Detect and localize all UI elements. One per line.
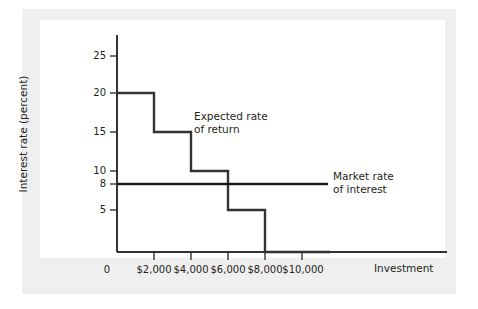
annotation-market-line-2: of interest [333, 183, 394, 196]
y-tick-label-8: 8 [80, 178, 106, 189]
annotation-expected-rate-of-return: Expected rate of return [194, 110, 268, 136]
y-tick-label-15: 15 [80, 126, 106, 137]
y-tick-label-10: 10 [80, 165, 106, 176]
chart-figure: Interest rate (percent) Investment 25 20… [0, 0, 478, 309]
annotation-expected-line-1: Expected rate [194, 110, 268, 123]
y-tick-label-25: 25 [80, 50, 106, 61]
annotation-market-line-1: Market rate [333, 170, 394, 183]
x-axis-title: Investment [374, 262, 433, 274]
y-tick-label-5: 5 [80, 204, 106, 215]
annotation-market-rate-of-interest: Market rate of interest [333, 170, 394, 196]
y-tick-label-20: 20 [80, 87, 106, 98]
x-tick-label-0: 0 [95, 264, 119, 275]
y-axis-title: Interest rate (percent) [17, 59, 29, 209]
y-axis-ticks [110, 56, 117, 210]
annotation-expected-line-2: of return [194, 123, 268, 136]
x-tick-label-10000: $10,000 [275, 264, 331, 275]
